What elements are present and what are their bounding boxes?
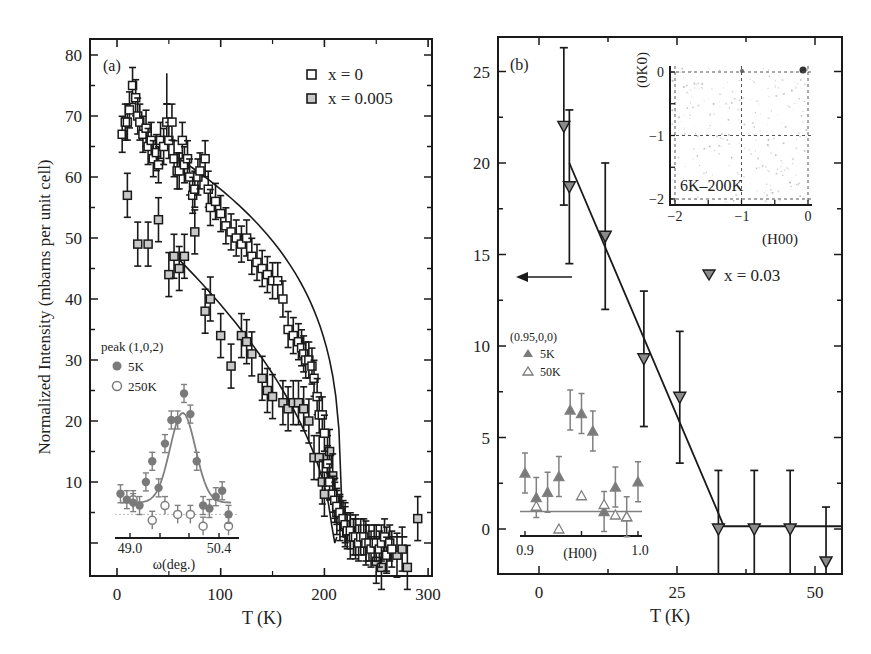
map-speckle: [690, 102, 691, 103]
map-speckle: [768, 139, 770, 141]
map-speckle: [709, 115, 710, 116]
map-speckle: [728, 143, 730, 145]
map-speckle: [756, 100, 758, 102]
map-speckle: [764, 192, 766, 194]
inset-b-point-50k: [577, 491, 587, 500]
map-speckle: [805, 129, 807, 131]
map-speckle: [677, 111, 678, 112]
map-speckle: [713, 103, 715, 105]
inset-b-xtick-10: 1.0: [631, 543, 649, 558]
inset-a-point-5k: [173, 416, 181, 424]
map-speckle: [708, 68, 709, 69]
panel-a-inset: [115, 384, 239, 541]
map-speckle: [718, 153, 720, 155]
map-speckle: [786, 167, 788, 169]
panel-b-xlabel: T (K): [650, 606, 690, 627]
map-speckle: [684, 128, 685, 129]
legend-label-x003: x = 0.03: [724, 266, 780, 285]
map-speckle: [804, 187, 805, 188]
inset-b-point-5k: [554, 472, 564, 481]
map-speckle: [767, 170, 769, 172]
map-speckle: [799, 98, 800, 99]
map-speckle: [704, 100, 705, 101]
fit-line-x003: [569, 163, 842, 526]
svg-text:100: 100: [207, 585, 233, 604]
inset-a-point-250k: [199, 522, 207, 530]
map-speckle: [775, 80, 776, 81]
inset-a-legend-250k: 250K: [128, 379, 158, 394]
map-speckle: [802, 111, 804, 113]
map-speckle: [690, 98, 691, 99]
map-speckle: [718, 145, 720, 147]
map-speckle: [765, 200, 767, 202]
map-speckle: [750, 132, 751, 133]
map-speckle: [691, 96, 692, 97]
inset-b-point-5k: [610, 482, 620, 491]
map-speckle: [681, 68, 683, 70]
map-speckle: [719, 94, 721, 96]
panel-a-xlabel: T (K): [242, 608, 282, 629]
data-point-x003: [674, 331, 686, 463]
svg-text:50: 50: [807, 583, 824, 602]
map-speckle: [732, 91, 734, 93]
data-point-x003: [563, 110, 575, 264]
map-speckle: [768, 117, 770, 119]
svg-text:40: 40: [65, 290, 82, 309]
map-label: 6K–200K: [680, 177, 744, 194]
svg-text:15: 15: [473, 246, 490, 265]
map-speckle: [765, 166, 767, 168]
map-speckle: [788, 106, 790, 108]
map-speckle: [728, 119, 730, 121]
map-speckle: [773, 138, 775, 140]
map-speckle: [766, 184, 767, 185]
svg-text:−1: −1: [649, 129, 664, 144]
map-speckle: [791, 155, 792, 156]
inset-a-legend-5k: 5K: [128, 359, 145, 374]
map-speckle: [732, 99, 733, 100]
map-speckle: [757, 157, 759, 159]
map-speckle: [777, 115, 778, 116]
map-speckle: [793, 130, 794, 131]
map-speckle: [785, 126, 787, 128]
map-speckle: [779, 200, 780, 201]
map-speckle: [744, 148, 746, 150]
inset-a-point-5k: [218, 487, 226, 495]
map-speckle: [735, 194, 737, 196]
inset-a-point-5k: [135, 501, 143, 509]
panel-b-ytick-labels: 0 5 10 15 20 25: [473, 63, 490, 539]
panel-a: (a) x = 0 x = 0.005 10 20 30 40 50 60 70…: [35, 39, 441, 629]
map-speckle: [725, 103, 727, 105]
map-speckle: [770, 189, 772, 191]
map-speckle: [697, 104, 699, 106]
panel-a-ylabel: Normalized Intensity (mbarns per unit ce…: [35, 159, 54, 454]
map-speckle: [709, 146, 711, 148]
map-speckle: [755, 112, 757, 114]
map-speckle: [707, 128, 708, 129]
svg-text:50: 50: [65, 229, 82, 248]
map-speckle: [713, 113, 714, 114]
map-speckle: [720, 137, 722, 139]
map-speckle: [767, 88, 768, 89]
map-speckle: [768, 69, 769, 70]
map-speckle: [804, 88, 805, 89]
map-speckle: [710, 125, 711, 126]
inset-a-title: peak (1,0,2): [101, 339, 163, 354]
map-speckle: [728, 107, 730, 109]
legend-label-x0: x = 0: [328, 65, 363, 84]
map-speckle: [697, 196, 699, 198]
map-speckle: [719, 101, 720, 102]
map-speckle: [688, 93, 689, 94]
map-speckle: [748, 133, 749, 134]
map-speckle: [742, 97, 744, 99]
inset-b-point-50k: [531, 501, 541, 510]
map-speckle: [787, 168, 789, 170]
map-speckle: [677, 156, 679, 158]
map-speckle: [760, 113, 761, 114]
map-speckle: [798, 132, 799, 133]
map-speckle: [738, 174, 739, 175]
map-speckle: [801, 115, 803, 117]
panel-a-ytick-labels: 10 20 30 40 50 60 70 80: [65, 46, 82, 492]
map-speckle: [728, 134, 730, 136]
legend-label-x0005: x = 0.005: [328, 89, 393, 108]
map-speckle: [802, 121, 804, 123]
